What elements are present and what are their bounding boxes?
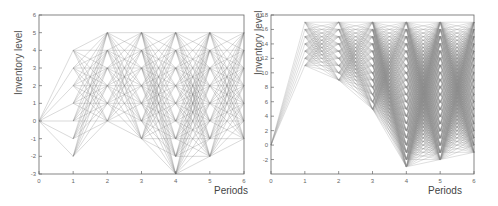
x-tick-label: 0: [37, 178, 41, 184]
y-tick-label: 6: [265, 99, 269, 105]
axes-frame: [39, 15, 244, 174]
chart-right: 0123456-2024681012141618 Inventory level…: [250, 0, 498, 206]
y-tick-label: -2: [263, 157, 269, 163]
chart-left-plot: 0123456-3-2-10123456: [0, 0, 250, 206]
y-tick-label: 5: [33, 30, 37, 36]
y-tick-label: -3: [31, 171, 37, 177]
y-tick-label: 8: [265, 84, 269, 90]
y-axis-label-left: Inventory level: [13, 31, 24, 95]
trajectory-lines: [39, 33, 244, 174]
x-axis-label-left: Periods: [214, 185, 248, 196]
x-tick-label: 5: [208, 178, 212, 184]
x-tick-label: 0: [269, 178, 273, 184]
x-axis-label-right: Periods: [428, 185, 462, 196]
y-tick-label: 4: [33, 47, 37, 53]
y-tick-label: 6: [33, 12, 37, 18]
x-tick-label: 4: [405, 178, 409, 184]
x-tick-label: 3: [140, 178, 144, 184]
x-tick-label: 6: [472, 178, 476, 184]
x-tick-label: 2: [106, 178, 110, 184]
y-tick-label: 4: [265, 113, 269, 119]
y-tick-label: 1: [33, 100, 37, 106]
x-tick-label: 4: [174, 178, 178, 184]
y-tick-label: 2: [33, 83, 37, 89]
x-tick-label: 1: [303, 178, 307, 184]
y-tick-label: -2: [31, 153, 37, 159]
y-axis-label-right: Inventory level: [253, 11, 264, 75]
y-tick-label: 0: [265, 142, 269, 148]
x-tick-label: 3: [371, 178, 375, 184]
y-tick-label: 0: [33, 118, 37, 124]
x-tick-label: 2: [337, 178, 341, 184]
chart-right-plot: 0123456-2024681012141618: [250, 0, 498, 206]
x-tick-label: 1: [71, 178, 75, 184]
x-tick-label: 6: [242, 178, 246, 184]
y-tick-label: 3: [33, 65, 37, 71]
y-tick-label: 2: [265, 128, 269, 134]
chart-left: 0123456-3-2-10123456 Inventory level Per…: [0, 0, 250, 206]
x-tick-label: 5: [438, 178, 442, 184]
y-tick-label: -1: [31, 136, 37, 142]
trajectory-lines: [271, 22, 474, 167]
